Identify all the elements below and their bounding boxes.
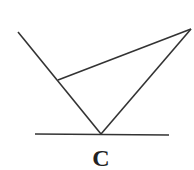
- cross-segment: [58, 29, 191, 80]
- right-ray: [101, 29, 191, 134]
- left-ray: [18, 32, 101, 134]
- geometry-diagram: C: [0, 0, 194, 170]
- baseline: [35, 134, 169, 135]
- diagram-label: C: [92, 145, 109, 170]
